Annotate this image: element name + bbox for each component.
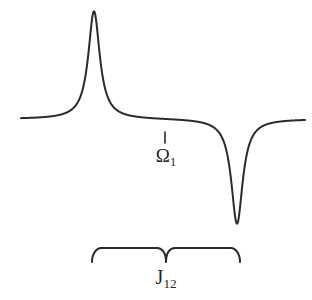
coupling-constant-label: J12 [131, 267, 201, 290]
omega-symbol: Ω [156, 145, 170, 166]
resonance-offset-label: Ω1 [131, 146, 201, 168]
nmr-spectrum-figure: Ω1 J12 [0, 0, 312, 300]
j-subscript: 12 [163, 276, 176, 291]
omega-subscript: 1 [170, 155, 176, 169]
